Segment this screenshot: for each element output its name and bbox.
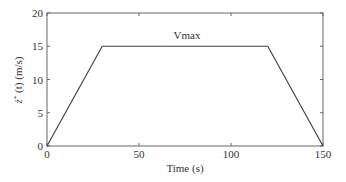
x-axis-label: Time (s) <box>166 162 204 175</box>
x-tick-label: 0 <box>44 148 50 160</box>
y-tick-label: 0 <box>38 140 44 152</box>
vmax-annotation: Vmax <box>174 29 201 41</box>
velocity-line <box>47 46 323 146</box>
velocity-profile-chart: 05010015005101520 Vmax Time (s) ż* (t) (… <box>0 0 346 182</box>
x-tick-label: 100 <box>223 148 240 160</box>
x-tick-label: 150 <box>315 148 332 160</box>
y-label-rest: (t) (m/s) <box>12 56 25 95</box>
x-tick-label: 50 <box>134 148 146 160</box>
y-tick-label: 5 <box>38 107 44 119</box>
y-axis-label: ż* (t) (m/s) <box>12 56 25 104</box>
y-tick-label: 10 <box>32 74 44 86</box>
y-tick-label: 15 <box>32 40 44 52</box>
y-tick-label: 20 <box>32 7 44 19</box>
data-series <box>47 46 323 146</box>
